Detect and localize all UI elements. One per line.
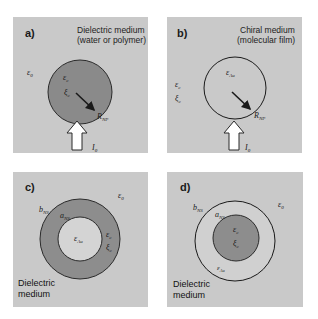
- panel-b-letter: b): [177, 27, 188, 39]
- medium-label-line2: medium: [173, 290, 205, 300]
- nanoparticle-metal-chiral: [48, 60, 112, 124]
- panel-a-letter: a): [25, 27, 35, 39]
- panel-c-letter: c): [25, 181, 35, 193]
- figure: a) Dielectric medium (water or polymer) …: [0, 0, 318, 319]
- panel-a-title-line2: (water or polymer): [77, 35, 146, 45]
- medium-label-line1: Dielectric: [18, 278, 56, 288]
- medium-label-line1: Dielectric: [173, 279, 211, 289]
- chiral-core: [213, 215, 259, 261]
- panel-b: b) Chiral medium (molecular film) εc ξc …: [167, 17, 302, 153]
- panel-a-title-line1: Dielectric medium: [77, 25, 145, 35]
- panel-d: d) ε0 bNS aNS εc ξc εAu Dielectric mediu…: [167, 172, 303, 307]
- panel-a: a) Dielectric medium (water or polymer) …: [13, 17, 148, 153]
- panel-c: c) ε0 bNS aNS εAu εc ξc Dielectric mediu…: [13, 172, 148, 307]
- panel-b-title-line2: (molecular film): [237, 35, 295, 45]
- gold-nanoparticle: [204, 57, 266, 119]
- medium-label-line2: medium: [18, 289, 50, 299]
- panel-b-title-line1: Chiral medium: [240, 25, 295, 35]
- panel-d-letter: d): [180, 181, 191, 193]
